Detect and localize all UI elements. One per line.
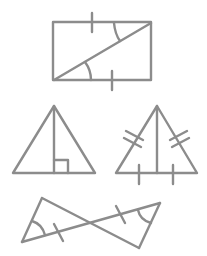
diagram-canvas [0, 0, 207, 256]
angle-arc-left [32, 221, 45, 235]
angle-arc-top-right [114, 23, 120, 41]
side-right [139, 203, 160, 248]
triangle-median-marked [116, 106, 197, 184]
bowtie-triangles [22, 198, 160, 248]
rectangle-with-diagonal [53, 13, 151, 90]
angle-arc-right [138, 210, 151, 223]
angle-arc-bottom-left [85, 62, 91, 80]
isosceles-triangle-altitude [13, 106, 95, 173]
diagonal [54, 23, 151, 80]
right-angle-marker [54, 160, 68, 173]
